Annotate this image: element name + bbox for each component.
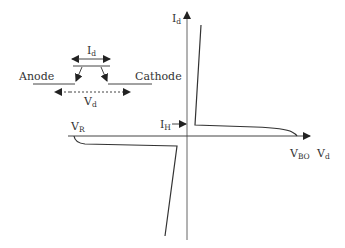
device-symbol: Anode Cathode Id Vd — [18, 44, 182, 109]
vbo-label: VBO — [289, 147, 310, 161]
vr-label: VR — [70, 120, 85, 134]
forward-branch — [195, 25, 297, 136]
iv-curve — [74, 25, 297, 236]
symbol-voltage-label: Vd — [83, 95, 97, 109]
x-axis-label: Vd — [316, 147, 330, 161]
diagram-canvas: Anode Cathode Id Vd Id Vd VR IH VBO — [0, 0, 345, 248]
axes: Id Vd — [68, 12, 330, 240]
ih-label: IH — [160, 118, 171, 132]
y-axis-label: Id — [172, 12, 181, 26]
right-diode-arrow-icon — [101, 67, 107, 81]
iv-characteristic-diagram: Anode Cathode Id Vd Id Vd VR IH VBO — [0, 0, 345, 248]
anode-label: Anode — [18, 70, 54, 83]
reverse-branch — [74, 136, 177, 236]
annotations: VR IH VBO — [70, 118, 310, 161]
symbol-current-label: Id — [87, 44, 96, 58]
left-diode-arrow-icon — [76, 67, 82, 81]
cathode-label: Cathode — [135, 70, 182, 83]
